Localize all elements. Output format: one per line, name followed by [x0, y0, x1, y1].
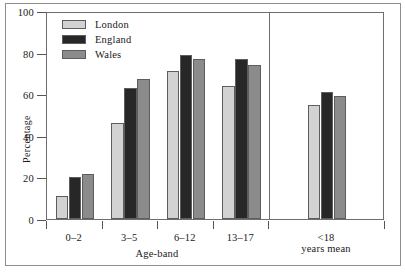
x-axis-tick: [102, 221, 103, 229]
y-axis-tick-label: 80: [23, 48, 34, 59]
bar: [222, 86, 235, 219]
y-axis-tick-label: 100: [18, 7, 34, 18]
x-axis-tick: [46, 221, 47, 229]
x-axis-tick: [157, 221, 158, 229]
y-axis-tick-label: 0: [29, 215, 34, 226]
x-axis-category-label-line: years mean: [301, 243, 351, 254]
x-axis-category-label: 0–2: [66, 232, 82, 243]
legend-item: London: [62, 18, 131, 31]
legend-label: Wales: [95, 49, 121, 60]
x-axis-title: Age-band: [136, 248, 179, 259]
x-axis-category-label-line: 0–2: [66, 232, 82, 243]
panel-separator: [269, 13, 270, 219]
x-axis-category-label-line: 6–12: [174, 232, 196, 243]
x-axis-category-label-line: <18: [318, 232, 335, 243]
y-axis-tick: [37, 95, 46, 96]
bar: [69, 177, 82, 219]
y-axis-tick: [37, 178, 46, 179]
bar: [82, 174, 95, 219]
y-axis-tick-label: 40: [23, 131, 34, 142]
y-axis-tick-label: 20: [23, 173, 34, 184]
x-axis-category-label-line: 13–17: [227, 232, 254, 243]
bar: [248, 65, 261, 219]
bar: [137, 79, 150, 219]
y-axis-tick: [37, 220, 46, 221]
legend-swatch-icon: [62, 20, 86, 29]
x-axis-tick: [268, 221, 269, 229]
x-axis-category-label: <18years mean: [301, 232, 351, 254]
x-axis-category-label: 13–17: [227, 232, 254, 243]
legend-label: London: [95, 19, 129, 30]
legend-swatch-icon: [62, 50, 86, 59]
legend-item: England: [62, 33, 131, 46]
bar: [321, 92, 334, 219]
chart-figure: Percentage 020406080100 0–23–56–1213–17<…: [0, 0, 405, 277]
bar: [193, 59, 206, 219]
x-axis-tick: [213, 221, 214, 229]
x-axis-tick: [384, 221, 385, 229]
x-axis-category-label: 6–12: [174, 232, 196, 243]
bar: [235, 59, 248, 219]
x-axis-category-label-line: 3–5: [121, 232, 137, 243]
y-axis-tick: [37, 12, 46, 13]
bar: [56, 196, 69, 219]
legend-swatch-icon: [62, 35, 86, 44]
y-axis-tick-label: 60: [23, 90, 34, 101]
legend-item: Wales: [62, 48, 131, 61]
legend-label: England: [95, 34, 131, 45]
bar: [111, 123, 124, 219]
bar: [167, 71, 180, 219]
legend: LondonEnglandWales: [62, 18, 131, 63]
bar: [124, 88, 137, 219]
y-axis-tick: [37, 137, 46, 138]
bar: [308, 105, 321, 219]
bar: [180, 55, 193, 219]
y-axis-tick: [37, 54, 46, 55]
bar: [334, 96, 347, 219]
x-axis-category-label: 3–5: [121, 232, 137, 243]
